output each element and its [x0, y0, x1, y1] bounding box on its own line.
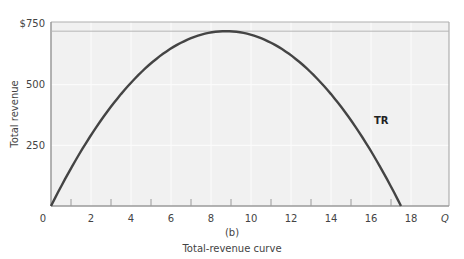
plot-area [51, 22, 449, 206]
total-revenue-chart: $750 500 250 0 2 4 6 8 10 12 14 16 18 Q … [0, 0, 464, 259]
y-tick-250: 250 [26, 140, 45, 151]
y-tick-750: $750 [20, 18, 45, 29]
x-tick-12: 12 [285, 213, 298, 224]
x-tick-10: 10 [245, 213, 258, 224]
x-tick-0: 0 [40, 213, 46, 224]
x-tick-16: 16 [365, 213, 378, 224]
x-tick-2: 2 [88, 213, 94, 224]
x-axis-variable-q: Q [441, 213, 449, 224]
y-axis-title: Total revenue [9, 80, 20, 148]
panel-label: (b) [225, 227, 239, 238]
x-tick-4: 4 [128, 213, 134, 224]
chart-caption: Total-revenue curve [181, 243, 281, 254]
x-tick-8: 8 [208, 213, 214, 224]
y-tick-500: 500 [26, 79, 45, 90]
x-tick-6: 6 [168, 213, 174, 224]
x-tick-14: 14 [325, 213, 338, 224]
x-tick-18: 18 [405, 213, 418, 224]
curve-label-tr: TR [374, 115, 389, 126]
